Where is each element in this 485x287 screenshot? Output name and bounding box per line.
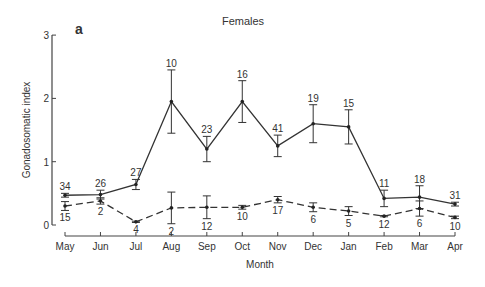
y-tick-label: 1 (43, 157, 49, 168)
data-point (170, 100, 174, 104)
x-tick-label: Aug (162, 241, 180, 252)
data-point (170, 206, 174, 210)
sample-size-label: 10 (237, 211, 249, 222)
data-point (276, 144, 280, 148)
data-point (240, 100, 244, 104)
y-tick-label: 3 (43, 30, 49, 41)
sample-size-label: 16 (237, 69, 249, 80)
sample-size-label: 12 (379, 219, 391, 230)
data-point (418, 195, 422, 199)
x-tick-label: Mar (411, 241, 429, 252)
y-axis-label: Gonadosomatic index (21, 82, 32, 179)
sample-size-label: 4 (133, 224, 139, 235)
sample-size-label: 41 (272, 123, 284, 134)
data-point (311, 122, 315, 126)
sample-size-label: 18 (414, 174, 426, 185)
data-point (453, 216, 457, 220)
series-line-solid (65, 102, 455, 205)
data-point (453, 202, 457, 206)
data-point (205, 147, 209, 151)
sample-size-label: 10 (449, 221, 461, 232)
data-point (382, 214, 386, 218)
data-point (99, 193, 103, 197)
sample-size-label: 26 (95, 178, 107, 189)
sample-size-label: 15 (59, 212, 71, 223)
data-point (63, 204, 67, 208)
panel-label: a (75, 21, 83, 37)
sample-size-label: 5 (346, 218, 352, 229)
x-tick-label: Dec (304, 241, 322, 252)
x-tick-label: May (56, 241, 75, 252)
y-tick-label: 2 (43, 93, 49, 104)
sample-size-label: 2 (169, 226, 175, 237)
x-tick-label: Jul (130, 241, 143, 252)
data-point (347, 209, 351, 213)
plot-area: 3426271023164119151118311524212101765126… (59, 58, 461, 237)
sample-size-label: 23 (201, 124, 213, 135)
sample-size-label: 2 (98, 206, 104, 217)
x-tick-label: Oct (234, 241, 250, 252)
data-point (99, 199, 103, 203)
data-point (240, 205, 244, 209)
y-tick-label: 0 (43, 220, 49, 231)
data-point (347, 125, 351, 129)
data-point (63, 193, 67, 197)
data-point (311, 205, 315, 209)
x-tick-label: Feb (375, 241, 393, 252)
axes: 0123MayJunJulAugSepOctNovDecJanFebMarApr (43, 30, 463, 252)
sample-size-label: 10 (166, 58, 178, 69)
sample-size-label: 17 (272, 205, 284, 216)
sample-size-label: 6 (310, 214, 316, 225)
chart-title: Females (222, 15, 265, 27)
data-point (276, 198, 280, 202)
x-tick-label: Sep (198, 241, 216, 252)
x-axis-label: Month (246, 259, 274, 270)
sample-size-label: 31 (449, 190, 461, 201)
sample-size-label: 12 (201, 221, 213, 232)
data-point (382, 197, 386, 201)
sample-size-label: 27 (130, 167, 142, 178)
sample-size-label: 19 (308, 93, 320, 104)
x-tick-label: Nov (269, 241, 287, 252)
sample-size-label: 34 (59, 181, 71, 192)
series-line-dashed (65, 200, 455, 222)
x-tick-label: Jun (92, 241, 108, 252)
sample-size-label: 11 (379, 178, 390, 189)
chart: a Females Gonadosomatic index Month 0123… (0, 0, 485, 287)
data-point (418, 207, 422, 211)
data-point (205, 205, 209, 209)
data-point (134, 220, 138, 224)
sample-size-label: 6 (417, 218, 423, 229)
data-point (134, 183, 138, 187)
sample-size-label: 15 (343, 98, 355, 109)
x-tick-label: Jan (341, 241, 357, 252)
x-tick-label: Apr (447, 241, 463, 252)
